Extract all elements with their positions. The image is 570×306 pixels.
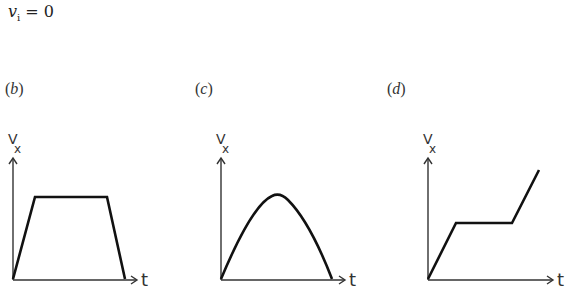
y-axis-subscript-c: x — [222, 142, 229, 156]
y-axis-subscript-d: x — [429, 142, 436, 156]
graph-d: V x t — [423, 131, 564, 290]
graphs-canvas: V x t V x t V x t — [0, 0, 570, 306]
graph-c: V x t — [216, 131, 356, 290]
x-axis-label-c: t — [349, 269, 356, 290]
x-axis-label-b: t — [141, 269, 148, 290]
velocity-curve-b — [13, 197, 125, 279]
y-axis-subscript-b: x — [14, 142, 21, 156]
graph-b: V x t — [8, 131, 148, 290]
velocity-curve-d — [428, 170, 539, 279]
velocity-curve-c — [221, 195, 332, 279]
x-axis-label-d: t — [557, 269, 564, 290]
